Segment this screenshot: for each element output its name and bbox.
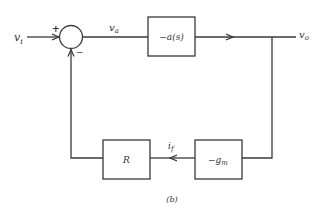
feedback-block-diagram: vi + − va −a(s) vo −gm if R (b) xyxy=(0,0,323,215)
input-signal-label: vi xyxy=(14,31,23,46)
feedback-current-label: if xyxy=(168,141,175,153)
error-signal-label: va xyxy=(109,22,119,35)
forward-gain-label: −a(s) xyxy=(159,32,184,42)
output-feedback-path xyxy=(242,37,272,158)
output-signal-label: vo xyxy=(299,29,309,42)
summing-junction xyxy=(60,26,83,49)
plus-sign: + xyxy=(52,24,60,34)
feedback-return-arrow xyxy=(71,50,103,159)
resistor-label: R xyxy=(122,155,130,165)
figure-caption: (b) xyxy=(166,195,177,204)
minus-sign: − xyxy=(76,47,84,57)
